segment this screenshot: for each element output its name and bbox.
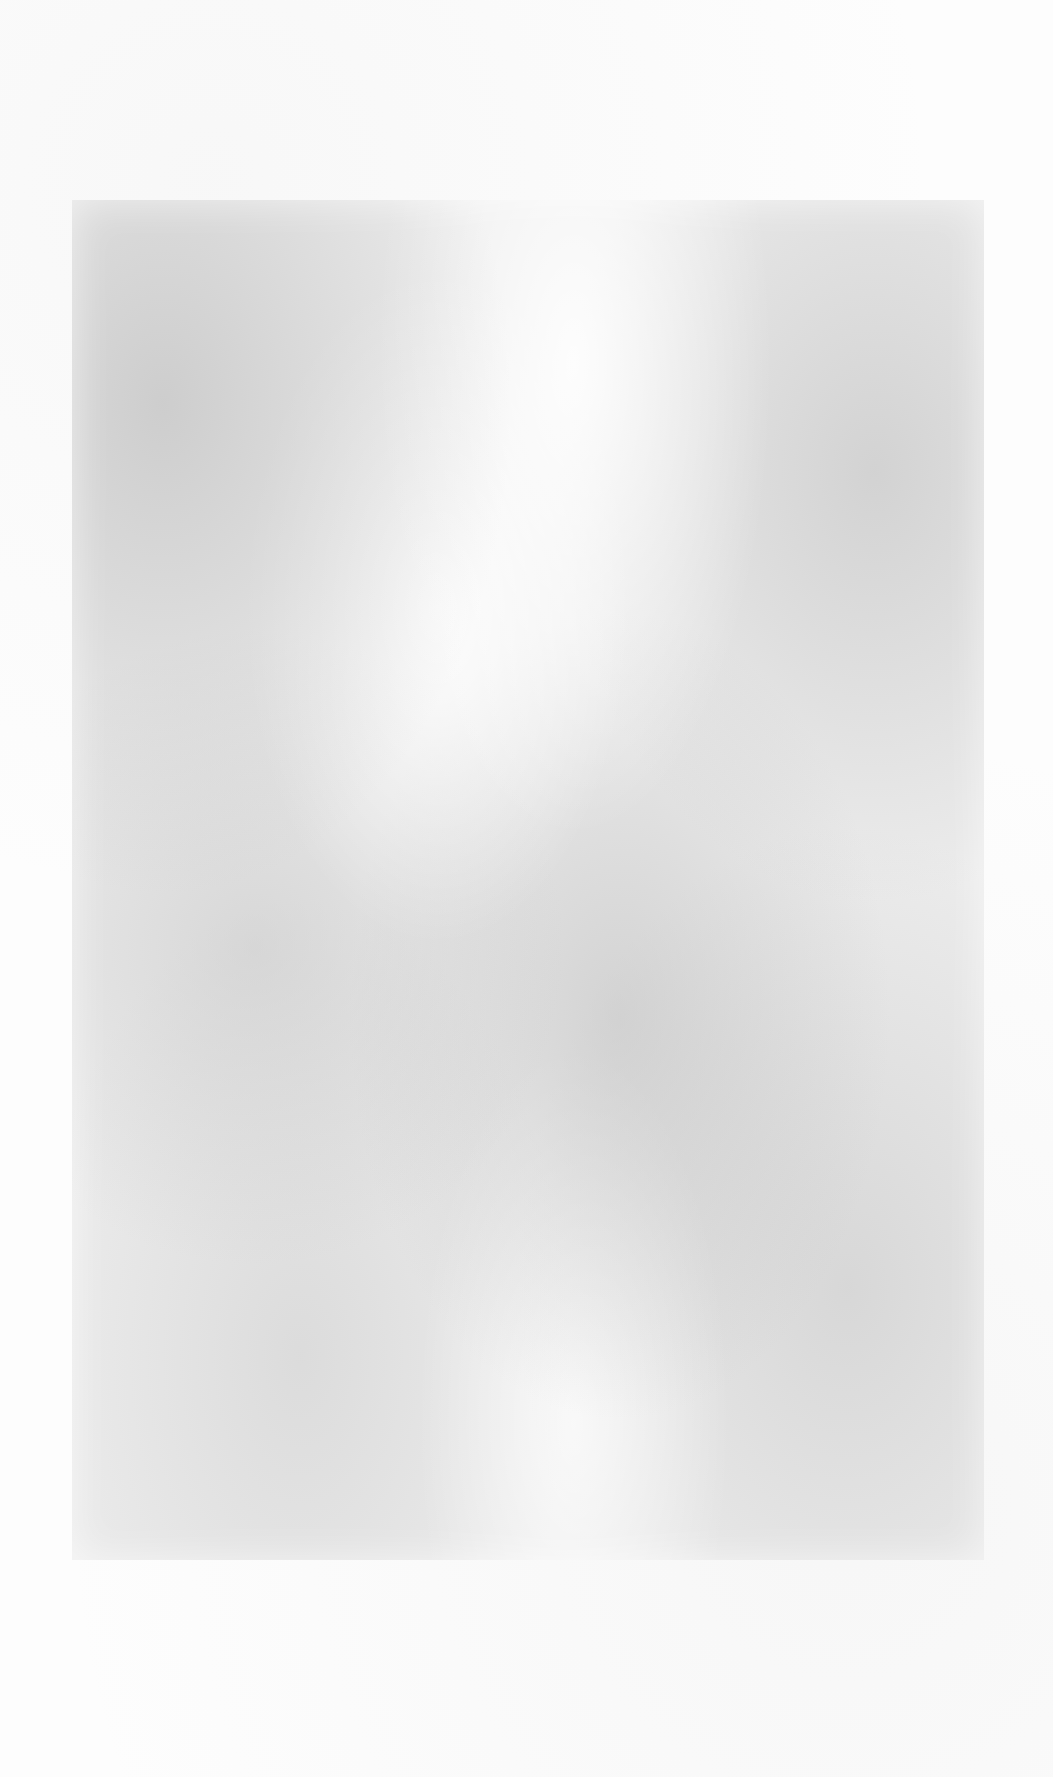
textured-plate-area	[72, 200, 984, 1560]
paper-page	[0, 0, 1053, 1777]
